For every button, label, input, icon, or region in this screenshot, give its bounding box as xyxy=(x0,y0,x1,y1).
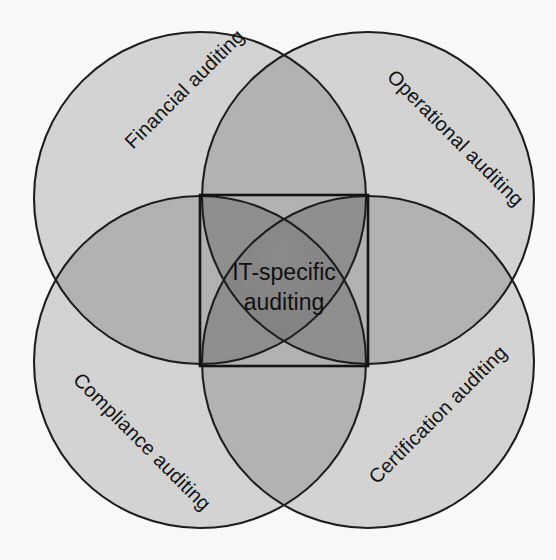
center-label-line-1: IT-specific xyxy=(232,259,336,285)
venn-diagram-canvas: Financial auditing Operational auditing … xyxy=(0,0,556,560)
venn-diagram-figure: Financial auditing Operational auditing … xyxy=(0,0,556,560)
center-label-line-2: auditing xyxy=(244,289,325,315)
